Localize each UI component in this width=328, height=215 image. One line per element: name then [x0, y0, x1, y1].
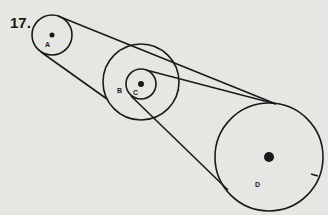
- pulleys-group: ABCD: [32, 15, 323, 211]
- pulley-d-hub: [264, 152, 274, 162]
- pulley-b-label: B: [117, 87, 122, 94]
- rim-marker-tick: [311, 174, 318, 176]
- pulley-belt-drawing: ABCD: [0, 0, 328, 215]
- belt-lines: [41, 16, 276, 190]
- pulley-a-hub: [50, 33, 55, 38]
- pulley-c-hub: [138, 81, 144, 87]
- belt-c-d: [146, 70, 276, 104]
- pulley-diagram: 17. ABCD: [0, 0, 328, 215]
- pulley-d: D: [215, 103, 323, 211]
- problem-number: 17.: [10, 14, 31, 31]
- pulley-a: A: [32, 15, 72, 55]
- pulley-c: C: [126, 69, 156, 99]
- pulley-d-label: D: [255, 181, 260, 188]
- belt-a-d: [58, 16, 276, 104]
- pulley-c-label: C: [133, 89, 138, 96]
- rim-marker: [311, 174, 318, 176]
- belt-a-b: [41, 52, 107, 99]
- belt-c-d: [131, 96, 228, 190]
- pulley-a-label: A: [45, 41, 50, 48]
